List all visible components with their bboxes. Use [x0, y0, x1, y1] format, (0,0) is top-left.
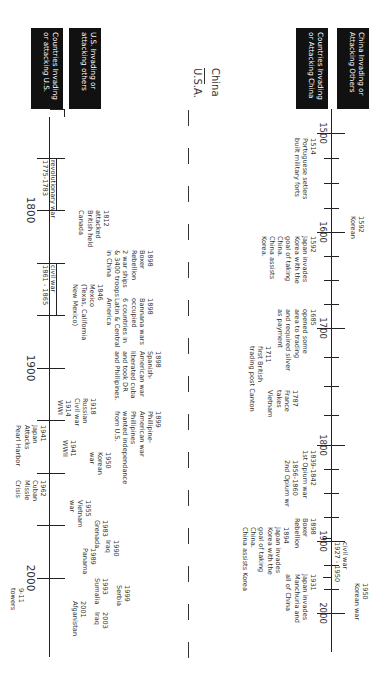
china-year-1600: 1600 — [318, 221, 328, 243]
event-1839-first-opium-war: 1839-1842 1st Opium war — [301, 450, 317, 498]
event-us-1914-wwi: 1914 WWI — [56, 400, 72, 417]
china-year-2000: 2000 — [318, 602, 328, 624]
event-us-1950-korean-war: 1950 Korean war — [87, 452, 112, 475]
event-revolutionary-war: revolutionary war 1775-1783 — [41, 160, 57, 218]
timeline-diagram: China Invading or Attacking Others Count… — [0, 0, 387, 680]
legend-others-attacking-us: Countries Invading or attacking U.S. — [31, 28, 63, 109]
event-us-1999-serbia: 1999 Serbia — [115, 585, 131, 606]
event-1592-japan-invades-korea: 1592 Japan invades Korea with the goal o… — [260, 236, 317, 284]
event-us-1898-spanish-american: 1898 Spanish- American war liberated cub… — [113, 351, 162, 401]
event-us-civil-war: civil war 1861 - 1865 — [41, 265, 57, 305]
usa-year-1900: 1900 — [25, 355, 37, 382]
event-us-1993-somalia: 1993 Sumalia — [93, 578, 109, 605]
china-year-1900: 1900 — [318, 530, 328, 552]
event-us-1955-vietnam-war: 1955 Vietnam war — [67, 500, 92, 527]
event-1685-trading: 1685 opened some area to trading and req… — [276, 309, 317, 371]
event-us-1941-wwii: 1941 WWII — [61, 440, 77, 457]
event-1898-boxer-rebellion: 1898 Boxer Rebellion — [292, 518, 317, 548]
event-1894-japan-invades-korea: 1894 Japan invades Korea with the goal o… — [241, 527, 290, 591]
event-us-1898-boxer: 1898 Boxer Rebellion 2 war ships & 3400 … — [105, 250, 154, 297]
event-us-1898-banana-wars: 1898 Bannana wars occupied 6 countries i… — [105, 298, 154, 348]
event-1514-portuguese: 1514 Portuguese setlers built military f… — [292, 138, 317, 199]
event-china-civil-war: civil war 1927 - 1950 — [333, 542, 349, 582]
event-1931-japan-manchuria: 1931 Japan invades Manchuria and all of … — [284, 574, 317, 623]
legend-us-attacking-others: U.S. Invading or attacking others — [69, 28, 101, 109]
event-us-1918-russian-civil-war: 1918 Russian Civil war — [72, 398, 97, 426]
event-1787-france-vietnam: 1787 France takes Vietnam — [266, 390, 299, 417]
event-us-1846-mexico: 1846 Mexico (Texas, California New Mexic… — [71, 284, 104, 340]
china-section-title: China — [210, 68, 221, 97]
event-us-1990-iraq: 1990 Iraq — [104, 540, 120, 557]
event-1962-cuban-missile-crisis: 1962 Cuban Missle Crisis — [14, 480, 47, 501]
event-china-1950-korean-war: 1950 Korean war — [353, 583, 369, 620]
event-us-2001-afghanistan: 2001 Afganistan — [71, 601, 87, 636]
event-1856-second-opium-war: 1856-1860 2nd Opium wr — [283, 460, 299, 507]
usa-year-1800: 1800 — [25, 197, 37, 224]
china-year-1700: 1700 — [318, 317, 328, 339]
legend-china-attacking-others: China Invading or Attacking Others — [337, 28, 369, 109]
event-us-1812-canada: 1812 attacked British held Canada — [77, 210, 110, 247]
event-1941-pearl-harbor: 1941 Japan Attacks Pearl Harbor — [14, 425, 47, 466]
event-us-1989-panama: 1989 Panama — [81, 548, 97, 574]
legend-others-attacking-china: Countries Invading or Attacking China — [296, 28, 328, 109]
usa-year-2000: 2000 — [25, 565, 37, 592]
event-us-2003-iraq: 2003 Iraq — [93, 612, 109, 629]
event-9-11-towers: 9-11 towers — [9, 588, 25, 610]
usa-section-title: U.S.A. — [192, 68, 203, 98]
china-year-1800: 1800 — [318, 434, 328, 456]
china-year-1500: 1500 — [318, 122, 328, 144]
event-china-1592-korean: 1592 Korean — [349, 216, 365, 239]
event-us-1899-philippine-american: 1899 Phillipine- American war Phillipine… — [113, 411, 162, 484]
